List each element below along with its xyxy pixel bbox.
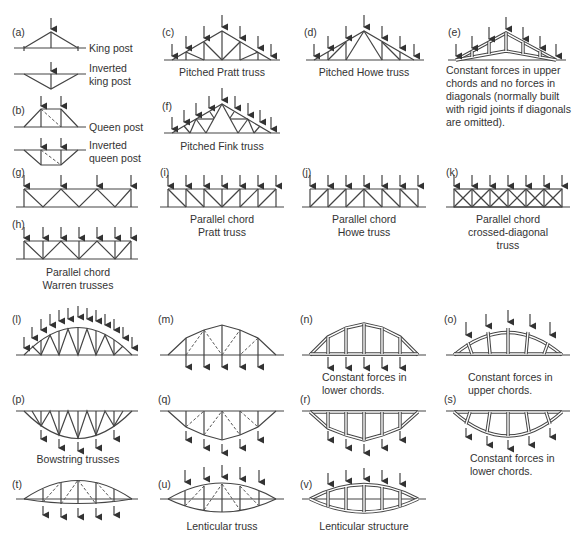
arch-rigid-frame-top-loaded — [446, 310, 570, 355]
lenticular-truss — [160, 465, 284, 512]
caption-arch-lower: Constant forces in lower chords. — [322, 371, 407, 397]
panel-tag-c: (c) — [162, 26, 174, 38]
inverted-bowstring-truss — [16, 411, 138, 451]
caption-lenticular-truss: Lenticular truss — [160, 520, 284, 533]
panel-tag-g: (g) — [12, 166, 25, 178]
panel-tag-k: (k) — [446, 166, 458, 178]
panel-tag-i: (i) — [160, 166, 169, 178]
caption-bowstring: Bowstring trusses — [16, 453, 140, 466]
parallel-howe-truss — [302, 175, 426, 207]
panel-tag-h: (h) — [12, 218, 25, 230]
panel-tag-t: (t) — [12, 478, 22, 490]
inverted-rigid-frame — [302, 411, 426, 453]
panel-tag-q: (q) — [158, 393, 171, 405]
caption-lenticular-structure: Lenticular structure — [302, 520, 426, 533]
bowstring-truss-top-loaded — [16, 306, 138, 355]
caption-pitched-fink: Pitched Fink truss — [160, 140, 284, 153]
panel-tag-m: (m) — [158, 313, 174, 325]
truss-types-diagram: (a) King post Inverted king post (b) Que… — [0, 0, 586, 547]
pitched-vierendeel-truss — [448, 17, 566, 60]
label-inverted-king-post: Inverted king post — [89, 62, 149, 88]
parallel-warren-truss-verticals — [16, 227, 138, 259]
label-king-post: King post — [89, 42, 133, 55]
panel-tag-f: (f) — [162, 100, 172, 112]
bowstring-truss-bottom-loaded — [160, 325, 284, 367]
parallel-crossed-diagonal-truss — [446, 175, 570, 207]
arch-rigid-frame-bottom-loaded — [302, 324, 426, 368]
panel-tag-s: (s) — [444, 393, 456, 405]
inverted-rigid-frame-curved — [446, 411, 570, 449]
pitched-pratt-truss — [164, 15, 280, 60]
parallel-pratt-truss — [160, 175, 284, 207]
lenticular-truss-bottom-loaded — [16, 480, 138, 517]
panel-tag-n: (n) — [300, 313, 313, 325]
caption-arch-upper: Constant forces in upper chords. — [468, 371, 553, 397]
panel-tag-d: (d) — [304, 26, 317, 38]
inverted-bowstring-truss-dashed — [160, 411, 284, 453]
panel-tag-l: (l) — [12, 313, 21, 325]
panel-tag-j: (j) — [302, 166, 311, 178]
lenticular-structure — [302, 468, 426, 512]
pitched-fink-truss — [164, 88, 280, 133]
panel-tag-o: (o) — [444, 313, 457, 325]
inverted-queen-post-truss — [14, 138, 86, 165]
caption-howe: Parallel chord Howe truss — [302, 213, 426, 239]
caption-inverted-lower: Constant forces in lower chords. — [470, 452, 555, 478]
panel-tag-r: (r) — [300, 393, 311, 405]
caption-pitched-pratt: Pitched Pratt truss — [160, 66, 284, 79]
parallel-warren-truss — [16, 175, 138, 207]
panel-tag-p: (p) — [12, 393, 25, 405]
caption-pitched-howe: Pitched Howe truss — [300, 66, 428, 79]
label-inverted-queen-post: Inverted queen post — [89, 139, 153, 165]
caption-crossed-diagonal: Parallel chord crossed-diagonal truss — [446, 213, 570, 252]
label-queen-post: Queen post — [89, 121, 143, 134]
panel-tag-a: (a) — [12, 26, 25, 38]
caption-pratt: Parallel chord Pratt truss — [160, 213, 284, 239]
pitched-howe-truss — [306, 15, 424, 60]
panel-tag-u: (u) — [158, 478, 171, 490]
panel-tag-b: (b) — [12, 104, 25, 116]
caption-warren: Parallel chord Warren trusses — [16, 266, 140, 292]
panel-tag-v: (v) — [300, 478, 312, 490]
caption-rigid-pitched: Constant forces in upper chords and no f… — [446, 64, 571, 129]
panel-tag-e: (e) — [448, 26, 461, 38]
inverted-king-post-truss — [14, 62, 86, 89]
